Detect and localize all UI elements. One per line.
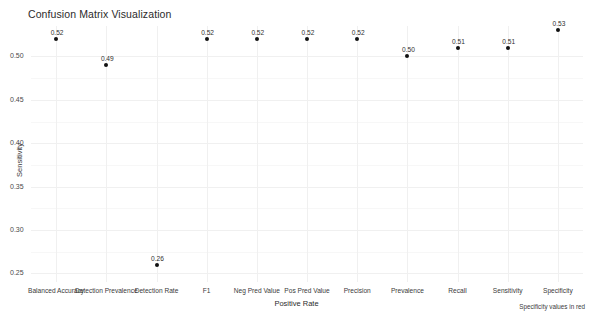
data-point-label: 0.52 bbox=[251, 29, 264, 36]
data-point-label: 0.50 bbox=[402, 46, 415, 53]
gridline-vertical bbox=[307, 26, 308, 282]
y-axis-tick-label: 0.35 bbox=[10, 183, 24, 190]
data-point-label: 0.53 bbox=[552, 20, 565, 27]
x-axis-tick-label: Pos Pred Value bbox=[284, 287, 329, 294]
x-axis-tick-label: Detection Prevalence bbox=[75, 287, 138, 294]
data-point bbox=[54, 37, 58, 41]
gridline-vertical bbox=[56, 26, 57, 282]
data-point bbox=[506, 46, 510, 50]
data-point bbox=[255, 37, 259, 41]
data-point-label: 0.49 bbox=[101, 55, 114, 62]
data-point bbox=[355, 37, 359, 41]
x-axis-tick-label: F1 bbox=[203, 287, 211, 294]
data-point bbox=[456, 46, 460, 50]
data-point-label: 0.52 bbox=[51, 29, 64, 36]
data-point bbox=[405, 54, 409, 58]
data-point bbox=[556, 28, 560, 32]
gridline-vertical bbox=[157, 26, 158, 282]
x-axis-tick-label: Prevalence bbox=[391, 287, 424, 294]
data-point-label: 0.52 bbox=[201, 29, 214, 36]
x-axis-tick-label: Detection Rate bbox=[135, 287, 179, 294]
chart-annotation: Specificity values in red bbox=[519, 303, 585, 310]
gridline-vertical bbox=[357, 26, 358, 282]
gridline-vertical bbox=[508, 26, 509, 282]
data-point bbox=[155, 263, 159, 267]
data-point-label: 0.52 bbox=[302, 29, 315, 36]
y-axis-label: Sensitivity bbox=[15, 143, 24, 177]
x-axis-tick-label: Sensitivity bbox=[493, 287, 523, 294]
data-point bbox=[205, 37, 209, 41]
gridline-vertical bbox=[207, 26, 208, 282]
data-point-label: 0.51 bbox=[502, 38, 515, 45]
data-point-label: 0.26 bbox=[151, 255, 164, 262]
data-point bbox=[305, 37, 309, 41]
x-axis-tick-label: Neg Pred Value bbox=[234, 287, 280, 294]
gridline-vertical bbox=[558, 26, 559, 282]
x-axis-tick-label: Specificity bbox=[543, 287, 573, 294]
gridline-vertical bbox=[257, 26, 258, 282]
x-axis-tick-label: Precision bbox=[344, 287, 371, 294]
y-axis-tick-label: 0.50 bbox=[10, 52, 24, 59]
y-axis-tick-label: 0.45 bbox=[10, 96, 24, 103]
data-point-label: 0.52 bbox=[352, 29, 365, 36]
chart-container: Confusion Matrix Visualization Sensitivi… bbox=[0, 0, 593, 319]
data-point bbox=[104, 63, 108, 67]
data-point-label: 0.51 bbox=[452, 38, 465, 45]
y-axis-tick-label: 0.25 bbox=[10, 269, 24, 276]
gridline-vertical bbox=[458, 26, 459, 282]
y-axis-tick-label: 0.30 bbox=[10, 226, 24, 233]
x-axis-label: Positive Rate bbox=[0, 299, 593, 308]
gridline-vertical bbox=[407, 26, 408, 282]
y-axis-tick-label: 0.40 bbox=[10, 139, 24, 146]
chart-title: Confusion Matrix Visualization bbox=[28, 8, 171, 20]
x-axis-tick-label: Recall bbox=[448, 287, 466, 294]
plot-area: 0.520.490.260.520.520.520.520.500.510.51… bbox=[31, 26, 583, 282]
